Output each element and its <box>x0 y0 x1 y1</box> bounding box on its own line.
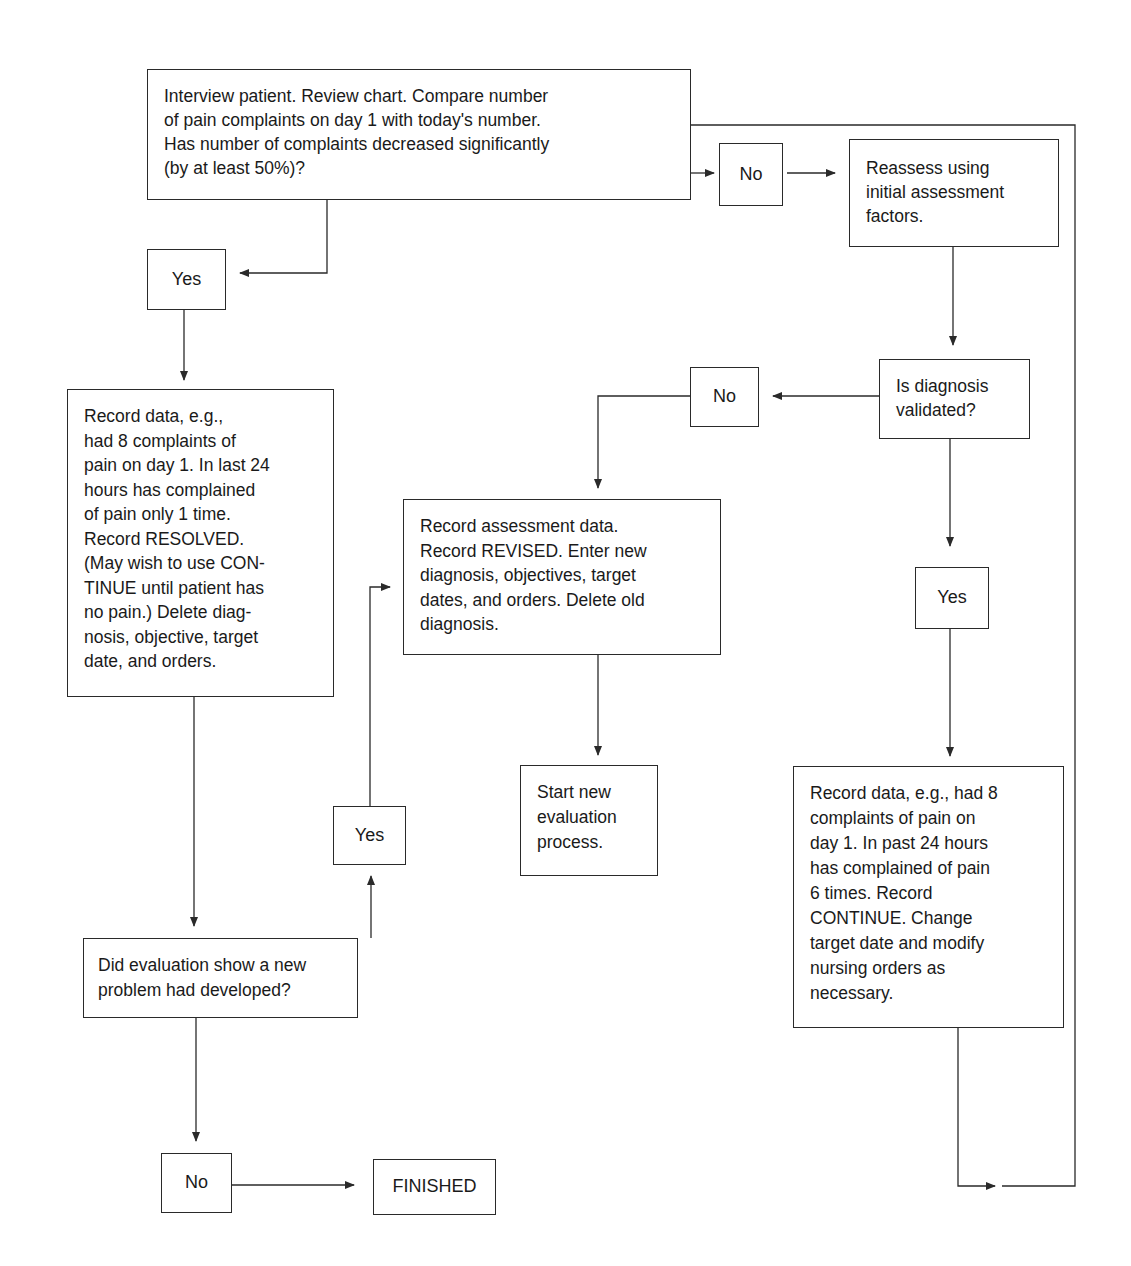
node-text-line: has complained of pain <box>810 856 1047 881</box>
node-label: Yes <box>355 825 384 847</box>
node-label: FINISHED <box>392 1176 476 1198</box>
node-text-line: Record data, e.g., had 8 <box>810 781 1047 806</box>
node-text-line: no pain.) Delete diag- <box>84 600 317 625</box>
node-text-line: Interview patient. Review chart. Compare… <box>164 84 674 108</box>
node-text-line: TINUE until patient has <box>84 576 317 601</box>
node-text-line: of pain only 1 time. <box>84 502 317 527</box>
node-text-line: (by at least 50%)? <box>164 156 674 180</box>
node-text-line: validated? <box>896 398 1013 422</box>
node-text-line: process. <box>537 830 641 855</box>
node-text-line: Reassess using <box>866 156 1042 180</box>
node-diagnosis-validated: Is diagnosis validated? <box>879 359 1030 439</box>
node-text-line: hours has complained <box>84 478 317 503</box>
node-text-line: problem had developed? <box>98 978 343 1003</box>
node-yes-left: Yes <box>147 249 226 310</box>
node-text-line: nosis, objective, target <box>84 625 317 650</box>
node-text-line: Record REVISED. Enter new <box>420 539 704 564</box>
node-text-line: date, and orders. <box>84 649 317 674</box>
node-text-line: Record assessment data. <box>420 514 704 539</box>
node-yes-middle: Yes <box>333 806 406 865</box>
node-text-line: nursing orders as <box>810 956 1047 981</box>
node-interview-patient: Interview patient. Review chart. Compare… <box>147 69 691 200</box>
node-record-resolved: Record data, e.g., had 8 complaints of p… <box>67 389 334 697</box>
node-text-line: complaints of pain on <box>810 806 1047 831</box>
node-text-line: Record RESOLVED. <box>84 527 317 552</box>
node-text-line: target date and modify <box>810 931 1047 956</box>
node-start-new-evaluation: Start new evaluation process. <box>520 765 658 876</box>
node-text-line: 6 times. Record <box>810 881 1047 906</box>
node-no-middle: No <box>690 367 759 427</box>
node-text-line: of pain complaints on day 1 with today's… <box>164 108 674 132</box>
node-text-line: day 1. In past 24 hours <box>810 831 1047 856</box>
node-no-top: No <box>719 143 783 206</box>
node-yes-right: Yes <box>915 567 989 629</box>
node-text-line: factors. <box>866 204 1042 228</box>
node-record-continue: Record data, e.g., had 8 complaints of p… <box>793 766 1064 1028</box>
node-no-bottom: No <box>161 1153 232 1213</box>
node-text-line: pain on day 1. In last 24 <box>84 453 317 478</box>
node-text-line: necessary. <box>810 981 1047 1006</box>
node-label: No <box>713 386 736 408</box>
node-text-line: diagnosis, objectives, target <box>420 563 704 588</box>
node-text-line: Start new <box>537 780 641 805</box>
node-text-line: Did evaluation show a new <box>98 953 343 978</box>
node-label: Yes <box>937 587 966 609</box>
node-text-line: had 8 complaints of <box>84 429 317 454</box>
node-text-line: evaluation <box>537 805 641 830</box>
node-record-revised: Record assessment data. Record REVISED. … <box>403 499 721 655</box>
node-text-line: Has number of complaints decreased signi… <box>164 132 674 156</box>
node-label: No <box>185 1172 208 1194</box>
node-new-problem: Did evaluation show a new problem had de… <box>83 938 358 1018</box>
node-label: No <box>739 164 762 186</box>
node-finished: FINISHED <box>373 1159 496 1215</box>
node-text-line: (May wish to use CON- <box>84 551 317 576</box>
node-text-line: Is diagnosis <box>896 374 1013 398</box>
node-text-line: dates, and orders. Delete old <box>420 588 704 613</box>
flowchart-canvas: Interview patient. Review chart. Compare… <box>0 0 1131 1266</box>
node-text-line: Record data, e.g., <box>84 404 317 429</box>
node-label: Yes <box>172 269 201 291</box>
node-reassess: Reassess using initial assessment factor… <box>849 139 1059 247</box>
node-text-line: initial assessment <box>866 180 1042 204</box>
node-text-line: CONTINUE. Change <box>810 906 1047 931</box>
node-text-line: diagnosis. <box>420 612 704 637</box>
